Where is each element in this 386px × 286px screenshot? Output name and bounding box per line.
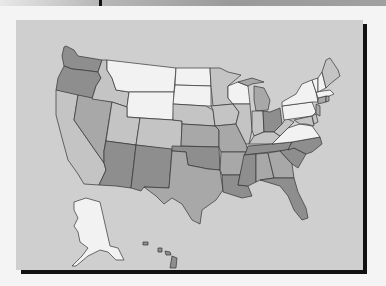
state-nj [316,104,320,116]
state-hi-4 [170,256,177,268]
top-strip [0,0,386,6]
state-sd [173,85,211,106]
state-hi-2 [158,248,162,252]
state-ks [181,124,219,147]
state-az [99,141,136,188]
state-hi-3 [165,251,171,255]
state-ia [211,104,239,126]
top-divider-mark [99,0,102,6]
state-ri [326,96,329,102]
state-me [322,58,340,88]
state-ny [282,80,318,106]
state-in [252,111,264,136]
state-hi-1 [143,242,148,245]
state-mt [107,60,176,92]
state-nm [131,145,172,191]
state-mi [254,86,270,111]
state-wy [127,92,174,120]
state-nd [175,68,211,86]
us-map [16,20,363,270]
state-ak [72,198,124,266]
state-fl [260,178,308,220]
